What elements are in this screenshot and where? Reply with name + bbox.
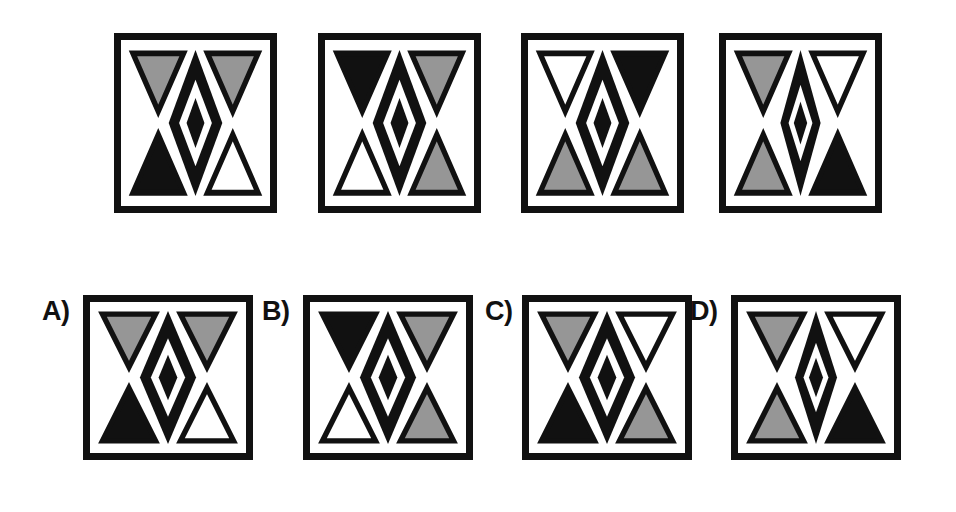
answer-option-c[interactable] xyxy=(522,295,692,460)
triangle-bottom-right-black xyxy=(812,135,863,193)
triangle-top-left-gray xyxy=(541,314,594,367)
panel-figure xyxy=(738,302,894,453)
triangle-bottom-right-gray xyxy=(614,135,665,193)
triangle-bottom-left-white xyxy=(322,388,375,441)
triangle-bottom-right-gray xyxy=(619,388,672,441)
answer-option-d[interactable] xyxy=(731,295,901,460)
answer-label-d: D) xyxy=(690,298,718,325)
triangle-top-left-white xyxy=(540,53,591,111)
triangle-top-right-white xyxy=(812,53,863,111)
triangle-top-right-white xyxy=(619,314,672,367)
panel-figure xyxy=(90,302,246,453)
answer-option-a[interactable] xyxy=(83,295,253,460)
triangle-bottom-right-gray xyxy=(411,135,462,193)
stimulus-2 xyxy=(318,33,481,213)
triangle-top-right-gray xyxy=(400,314,453,367)
panel-figure xyxy=(325,40,474,206)
triangle-top-right-gray xyxy=(180,314,233,367)
triangle-top-left-gray xyxy=(133,53,184,111)
triangle-top-left-gray xyxy=(102,314,155,367)
triangle-top-left-black xyxy=(322,314,375,367)
stimulus-3 xyxy=(521,33,684,213)
triangle-top-right-white xyxy=(828,314,881,367)
answer-label-a: A) xyxy=(42,298,70,325)
triangle-bottom-left-black xyxy=(102,388,155,441)
triangle-bottom-left-black xyxy=(133,135,184,193)
triangle-top-left-black xyxy=(337,53,388,111)
triangle-top-right-black xyxy=(614,53,665,111)
stimulus-4 xyxy=(719,33,882,213)
panel-figure xyxy=(528,40,677,206)
triangle-bottom-left-white xyxy=(337,135,388,193)
panel-figure xyxy=(726,40,875,206)
panel-figure xyxy=(121,40,270,206)
triangle-top-right-gray xyxy=(207,53,258,111)
answer-option-b[interactable] xyxy=(303,295,473,460)
triangle-bottom-left-black xyxy=(541,388,594,441)
puzzle-stage: A)B)C)D) xyxy=(0,0,956,512)
triangle-bottom-left-gray xyxy=(540,135,591,193)
answer-label-c: C) xyxy=(485,298,513,325)
triangle-bottom-left-gray xyxy=(738,135,789,193)
triangle-top-left-gray xyxy=(738,53,789,111)
triangle-bottom-right-white xyxy=(207,135,258,193)
triangle-top-left-gray xyxy=(750,314,803,367)
triangle-bottom-left-gray xyxy=(750,388,803,441)
panel-figure xyxy=(529,302,685,453)
triangle-bottom-right-black xyxy=(828,388,881,441)
triangle-bottom-right-gray xyxy=(400,388,453,441)
triangle-top-right-gray xyxy=(411,53,462,111)
panel-figure xyxy=(310,302,466,453)
answer-label-b: B) xyxy=(262,298,290,325)
stimulus-1 xyxy=(114,33,277,213)
triangle-bottom-right-white xyxy=(180,388,233,441)
